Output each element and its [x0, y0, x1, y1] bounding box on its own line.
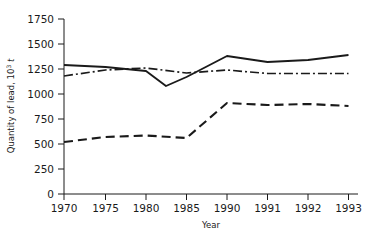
x-tick-label-1985: 1985 — [173, 202, 200, 214]
x-tick-label-1970: 1970 — [51, 202, 78, 214]
y-axis-ticks — [58, 19, 64, 194]
y-tick-label-0: 0 — [47, 188, 54, 200]
y-tick-label-1000: 1000 — [27, 88, 54, 100]
y-tick-label-1250: 1250 — [27, 63, 54, 75]
y-axis-title: Quantity of lead, 103 t — [5, 58, 16, 153]
y-axis-title-unit: t — [6, 58, 16, 62]
y-axis-tick-labels: 0 250 500 750 1000 1250 1500 1750 — [27, 13, 54, 200]
x-tick-label-1975: 1975 — [92, 202, 119, 214]
x-tick-label-1992: 1992 — [295, 202, 322, 214]
y-tick-label-500: 500 — [34, 138, 54, 150]
y-axis-title-main: Quantity of lead, 10 — [6, 69, 16, 154]
x-tick-label-1991: 1991 — [254, 202, 281, 214]
y-tick-label-1750: 1750 — [27, 13, 54, 25]
series-line-total-consumption — [64, 55, 349, 86]
series-line-secondary-production — [64, 68, 349, 76]
y-tick-label-1500: 1500 — [27, 38, 54, 50]
x-axis-tick-labels: 1970 1975 1980 1985 1990 1991 1992 1993 — [51, 202, 362, 214]
data-series-layer — [64, 55, 349, 142]
chart-figure: 0 250 500 750 1000 1250 1500 1750 1970 1… — [0, 0, 372, 233]
x-axis-ticks — [64, 194, 349, 200]
x-tick-label-1990: 1990 — [214, 202, 241, 214]
series-line-recycled-lead — [64, 103, 349, 142]
x-tick-label-1980: 1980 — [133, 202, 160, 214]
y-tick-label-750: 750 — [34, 113, 54, 125]
y-tick-label-250: 250 — [34, 163, 54, 175]
chart-canvas: 0 250 500 750 1000 1250 1500 1750 1970 1… — [0, 0, 372, 233]
x-tick-label-1993: 1993 — [335, 202, 362, 214]
x-axis-title: Year — [201, 220, 221, 230]
